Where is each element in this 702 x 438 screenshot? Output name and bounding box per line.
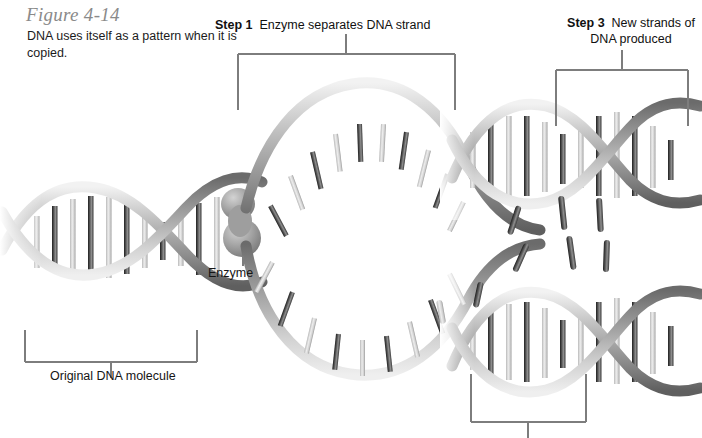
unpaired-bases-upper [268,124,465,237]
step3-text-line1: New strands of [612,16,695,30]
step1-text: Enzyme separates DNA strand [259,18,430,32]
figure-number: Figure 4-14 [26,4,120,26]
figure-caption: DNA uses itself as a pattern when it is … [27,28,242,61]
unpaired-bases-lower [254,261,466,376]
step3-number: Step 3 [567,16,605,30]
step3-text-line2: DNA produced [556,32,702,48]
new-dna-helix-top [440,80,700,220]
step1-label: Step 1 Enzyme separates DNA strand [215,18,430,34]
step1-number: Step 1 [215,18,253,32]
step3-label: Step 3 New strands of DNA produced [556,16,702,47]
enzyme-label: Enzyme [208,266,253,280]
replication-bubble [246,83,540,376]
figure-canvas: Figure 4-14 DNA uses itself as a pattern… [0,0,702,438]
original-dna-label: Original DNA molecule [50,369,176,383]
